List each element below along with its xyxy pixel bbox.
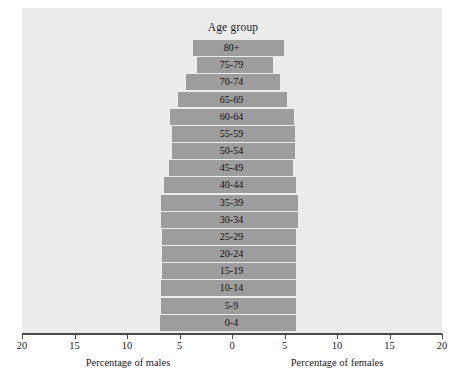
axis-tick-label: 20 xyxy=(2,340,42,351)
axis-tick-label: 15 xyxy=(55,340,95,351)
bar-segment xyxy=(162,263,296,279)
bar-row: 25-29 xyxy=(22,229,442,245)
bar-segment xyxy=(161,195,299,211)
bar-segment xyxy=(162,246,296,262)
bar-segment xyxy=(178,92,286,108)
axis-tick-mark xyxy=(127,334,128,339)
bar-row: 60-64 xyxy=(22,109,442,125)
population-pyramid-figure: Age group 80+75-7970-7465-6960-6455-5950… xyxy=(0,0,464,388)
axis-tick-label: 15 xyxy=(370,340,410,351)
bar-segment xyxy=(172,143,295,159)
bar-row: 35-39 xyxy=(22,195,442,211)
bar-row: 70-74 xyxy=(22,74,442,90)
bar-segment xyxy=(186,74,281,90)
bar-row: 80+ xyxy=(22,40,442,56)
bar-row: 5-9 xyxy=(22,298,442,314)
axis-tick-mark xyxy=(390,334,391,339)
bar-row: 15-19 xyxy=(22,263,442,279)
bar-segment xyxy=(161,280,296,296)
axis-tick-label: 5 xyxy=(265,340,305,351)
bar-segment xyxy=(197,57,273,73)
axis-tick-mark xyxy=(285,334,286,339)
bar-segment xyxy=(164,177,296,193)
bars-area: 80+75-7970-7465-6960-6455-5950-5445-4940… xyxy=(22,40,442,332)
axis-tick-mark xyxy=(22,334,23,339)
bar-segment xyxy=(170,109,294,125)
x-axis-label-females: Percentage of females xyxy=(237,357,437,368)
bar-segment xyxy=(161,212,299,228)
axis-tick-mark xyxy=(337,334,338,339)
axis-tick-label: 20 xyxy=(422,340,462,351)
chart-title: Age group xyxy=(0,21,464,33)
axis-tick-mark xyxy=(75,334,76,339)
x-axis-label-males: Percentage of males xyxy=(28,357,228,368)
axis-tick-label: 10 xyxy=(317,340,357,351)
axis-tick-label: 5 xyxy=(160,340,200,351)
bar-segment xyxy=(172,126,295,142)
bar-row: 20-24 xyxy=(22,246,442,262)
bar-segment xyxy=(162,229,296,245)
axis-tick-mark xyxy=(232,334,233,339)
axis-tick-label: 10 xyxy=(107,340,147,351)
bar-row: 0-4 xyxy=(22,315,442,331)
bar-row: 75-79 xyxy=(22,57,442,73)
axis-tick-mark xyxy=(180,334,181,339)
bar-row: 50-54 xyxy=(22,143,442,159)
bar-segment xyxy=(169,160,293,176)
bar-row: 45-49 xyxy=(22,160,442,176)
bar-row: 55-59 xyxy=(22,126,442,142)
axis-tick-mark xyxy=(442,334,443,339)
bar-row: 30-34 xyxy=(22,212,442,228)
bar-row: 10-14 xyxy=(22,280,442,296)
axis-tick-label: 0 xyxy=(212,340,252,351)
bar-segment xyxy=(161,298,296,314)
bar-segment xyxy=(160,315,297,331)
bar-row: 40-44 xyxy=(22,177,442,193)
bar-segment xyxy=(193,40,284,56)
chart-title-text: Age group xyxy=(208,21,259,33)
bar-row: 65-69 xyxy=(22,92,442,108)
